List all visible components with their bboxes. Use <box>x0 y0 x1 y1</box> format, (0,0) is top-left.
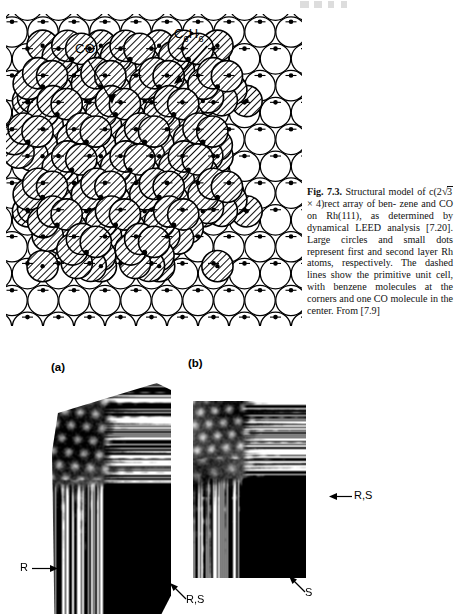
second-layer-rh-dot <box>55 112 60 117</box>
second-layer-rh-dot <box>25 139 30 144</box>
annotation-rs-text-b: R,S <box>354 489 372 501</box>
second-layer-rh-dot <box>215 43 219 47</box>
second-layer-rh-dot <box>40 154 44 158</box>
second-layer-rh-dot <box>127 57 132 62</box>
arrow-up-left-icon <box>167 581 189 601</box>
second-layer-rh-dot <box>186 57 191 62</box>
rh-atom-circle <box>6 205 12 235</box>
second-layer-rh-dot <box>171 222 176 227</box>
arrow-right-icon <box>31 563 59 574</box>
annotation-r-text: R <box>20 561 28 573</box>
second-layer-rh-dot <box>127 167 132 172</box>
arrow-left-icon <box>329 491 353 502</box>
arrow-up-left-icon-b <box>286 574 308 594</box>
second-layer-rh-dot <box>244 99 248 103</box>
second-layer-rh-dot <box>215 195 220 200</box>
second-layer-rh-dot <box>215 154 219 158</box>
panel-label-a: (a) <box>51 361 65 373</box>
caption-formula-post: × 4)rect array of ben- <box>307 198 396 209</box>
second-layer-rh-dot <box>171 112 176 117</box>
second-layer-rh-dot <box>26 209 30 213</box>
second-layer-rh-dot <box>215 264 219 268</box>
second-layer-rh-dot <box>113 222 118 227</box>
structural-model: CO C6H6 <box>6 14 302 326</box>
second-layer-rh-dot <box>40 84 45 89</box>
second-layer-rh-dot <box>84 139 89 144</box>
second-layer-rh-dot <box>69 57 74 62</box>
second-layer-rh-dot <box>157 154 161 158</box>
second-layer-rh-dot <box>142 250 147 255</box>
rh-atom-circle <box>6 258 12 288</box>
figure-page: CO C6H6 Fig. 7.3. Structural model of c(… <box>0 0 455 614</box>
second-layer-rh-dot <box>40 264 44 268</box>
second-layer-rh-dot <box>142 99 146 103</box>
rh-atom-circle <box>291 44 302 74</box>
second-layer-rh-dot <box>142 209 146 213</box>
second-layer-rh-dot <box>200 139 205 144</box>
stm-image-b <box>193 401 306 578</box>
second-layer-rh-dot <box>215 84 220 89</box>
second-layer-rh-dot <box>99 43 103 47</box>
second-layer-rh-dot <box>40 195 45 200</box>
annotation-s-panel-b: S <box>305 586 312 598</box>
rh-atom-circle <box>291 97 302 127</box>
second-layer-rh-dot <box>113 112 118 117</box>
second-layer-rh-dot <box>157 195 162 200</box>
second-layer-rh-dot <box>26 99 30 103</box>
caption-formula-pre: c(2 <box>429 186 442 197</box>
caption-intro: Structural model of <box>345 186 425 197</box>
second-layer-rh-dot <box>186 167 191 172</box>
caption-body: zene and CO on Rh(111), as determined by… <box>307 198 453 316</box>
figure-caption: Fig. 7.3. Structural model of c(2√3 × 4)… <box>307 186 453 317</box>
second-layer-rh-dot <box>84 99 88 103</box>
co-label: CO <box>75 41 95 56</box>
annotation-rs-panel-a: R,S <box>186 593 204 605</box>
second-layer-rh-dot <box>84 250 89 255</box>
rh-atom-circle <box>291 151 302 181</box>
benzene-label: C6H6 <box>174 26 204 44</box>
panel-label-b: (b) <box>188 357 203 369</box>
second-layer-rh-dot <box>244 209 248 213</box>
caption-radicand: 3 <box>447 186 453 197</box>
second-layer-rh-dot <box>157 264 161 268</box>
figure-number-label: Fig. 7.3. <box>307 186 342 197</box>
second-layer-rh-dot <box>99 264 103 268</box>
second-layer-rh-dot <box>157 84 162 89</box>
second-layer-rh-dot <box>201 209 205 213</box>
second-layer-rh-dot <box>40 43 44 47</box>
second-layer-rh-dot <box>157 43 161 47</box>
stm-image-a <box>52 383 171 614</box>
second-layer-rh-dot <box>69 167 74 172</box>
second-layer-rh-dot <box>142 139 147 144</box>
annotation-r-panel-a: R <box>20 561 59 574</box>
second-layer-rh-dot <box>55 222 60 227</box>
annotation-rs-panel-b: R,S <box>329 489 372 502</box>
page-bleed-artifact <box>300 1 390 8</box>
second-layer-rh-dot <box>98 195 103 200</box>
second-layer-rh-dot <box>201 99 205 103</box>
second-layer-rh-dot <box>84 209 88 213</box>
rh-atom-circle <box>6 44 12 74</box>
second-layer-rh-dot <box>99 154 103 158</box>
rh-atom-circle <box>291 205 302 235</box>
rh-atom-circle <box>291 258 302 288</box>
